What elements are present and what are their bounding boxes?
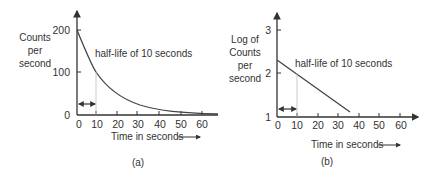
y-label-b-line2: Counts (229, 47, 261, 58)
y-label-b-line3: per (238, 60, 253, 71)
x-tick-40-b: 40 (353, 119, 365, 131)
x-label-b: Time in seconds (311, 139, 383, 150)
x-tick-30-b: 30 (332, 119, 344, 131)
x-tick-20-b: 20 (312, 119, 324, 131)
y-label-line2: per (28, 45, 43, 56)
y-label-b-line1: Log of (231, 34, 259, 45)
chart-b: 3 2 1 0 10 20 30 40 50 60 Log of Counts … (229, 13, 418, 167)
y-tick-200: 200 (52, 24, 70, 36)
y-tick-0: 0 (64, 109, 70, 121)
x-tick-50: 50 (175, 118, 187, 130)
decay-curve (77, 30, 218, 114)
chart-a: 200 100 0 0 10 20 30 40 50 60 Counts per… (19, 11, 218, 168)
y-tick-100: 100 (52, 66, 70, 78)
x-tick-30: 30 (132, 118, 144, 130)
y-label-line1: Counts (19, 32, 51, 43)
y-label-b-line4: second (229, 73, 261, 84)
x-tick-60-b: 60 (395, 119, 407, 131)
panel-label-b: (b) (321, 156, 333, 167)
panel-label-a: (a) (132, 157, 144, 168)
annotation-b: half-life of 10 seconds (295, 58, 392, 69)
x-tick-20: 20 (112, 118, 124, 130)
x-label-a: Time in seconds (111, 131, 183, 142)
y-label-line3: second (19, 58, 51, 69)
x-tick-10: 10 (91, 118, 103, 130)
y-tick-3: 3 (265, 24, 271, 36)
figure: 200 100 0 0 10 20 30 40 50 60 Counts per… (0, 0, 436, 177)
annotation-a: half-life of 10 seconds (95, 48, 192, 59)
x-tick-40: 40 (154, 118, 166, 130)
y-tick-1: 1 (265, 111, 271, 123)
x-tick-0: 0 (76, 118, 82, 130)
x-tick-50-b: 50 (373, 119, 385, 131)
y-tick-2: 2 (265, 67, 271, 79)
x-tick-60: 60 (196, 118, 208, 130)
x-tick-0-b: 0 (275, 119, 281, 131)
x-tick-10-b: 10 (291, 119, 303, 131)
